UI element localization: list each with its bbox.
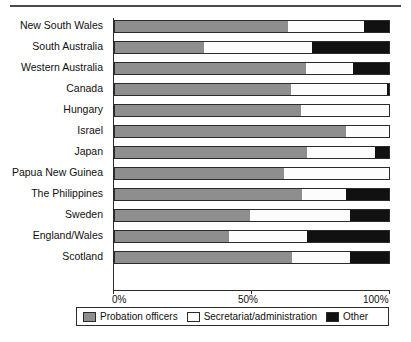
- bar-segment-probation-officers: [114, 20, 288, 33]
- x-axis-tick-label: 100%: [363, 294, 389, 305]
- bar-segment-secretariat-administration: [229, 230, 308, 243]
- bar-row: [114, 125, 390, 138]
- bar-segment-other: [350, 251, 390, 264]
- bar-segment-probation-officers: [114, 188, 302, 201]
- bar-row: [114, 167, 390, 180]
- legend-label: Secretariat/administration: [204, 311, 317, 322]
- bar-row: [114, 104, 390, 117]
- legend-swatch-icon: [187, 312, 200, 322]
- bar-segment-other: [375, 146, 390, 159]
- bar-row: [114, 20, 390, 33]
- category-label: England/Wales: [0, 228, 108, 249]
- bar-segment-other: [350, 209, 390, 222]
- bar-segment-other: [346, 188, 390, 201]
- bar-row: [114, 41, 390, 54]
- bar-segment-probation-officers: [114, 41, 204, 54]
- legend-label: Probation officers: [100, 311, 178, 322]
- category-axis-labels: New South WalesSouth AustraliaWestern Au…: [0, 18, 108, 270]
- bar-segment-other: [364, 20, 390, 33]
- bar-segment-probation-officers: [114, 146, 307, 159]
- legend-item[interactable]: Other: [326, 311, 368, 322]
- bar-segment-probation-officers: [114, 230, 229, 243]
- legend-swatch-icon: [326, 312, 339, 322]
- bar-segment-probation-officers: [114, 62, 306, 75]
- bar-segment-secretariat-administration: [291, 83, 386, 96]
- chart-legend: Probation officersSecretariat/administra…: [76, 307, 389, 326]
- category-label: Scotland: [0, 249, 108, 270]
- x-axis-tick-label: 0%: [112, 294, 126, 305]
- bar-segment-other: [307, 230, 390, 243]
- x-axis-tick: [389, 290, 390, 294]
- bar-row: [114, 251, 390, 264]
- plot-area: 0%50%100%: [113, 18, 389, 291]
- bar-segment-probation-officers: [114, 209, 250, 222]
- bar-segment-secretariat-administration: [307, 146, 376, 159]
- legend-item[interactable]: Probation officers: [83, 311, 178, 322]
- top-divider-rule: [10, 5, 401, 7]
- bar-row: [114, 188, 390, 201]
- bar-segment-probation-officers: [114, 251, 292, 264]
- legend-item[interactable]: Secretariat/administration: [187, 311, 317, 322]
- category-label: New South Wales: [0, 18, 108, 39]
- bar-segment-secretariat-administration: [292, 251, 350, 264]
- bar-row: [114, 83, 390, 96]
- bar-row: [114, 209, 390, 222]
- legend-swatch-icon: [83, 312, 96, 322]
- x-axis-tick-label: 50%: [238, 294, 258, 305]
- chart-page: New South WalesSouth AustraliaWestern Au…: [0, 0, 411, 342]
- bar-segment-probation-officers: [114, 104, 301, 117]
- bar-row: [114, 146, 390, 159]
- bar-row: [114, 62, 390, 75]
- bar-segment-probation-officers: [114, 167, 284, 180]
- category-label: Sweden: [0, 207, 108, 228]
- bar-segment-secretariat-administration: [346, 125, 390, 138]
- bar-segment-secretariat-administration: [204, 41, 312, 54]
- bar-segment-secretariat-administration: [288, 20, 364, 33]
- legend-label: Other: [343, 311, 368, 322]
- category-label: Israel: [0, 123, 108, 144]
- bar-segment-probation-officers: [114, 83, 291, 96]
- bar-segment-other: [387, 83, 390, 96]
- bar-segment-secretariat-administration: [301, 104, 390, 117]
- category-label: South Australia: [0, 39, 108, 60]
- category-label: Canada: [0, 81, 108, 102]
- bar-segment-secretariat-administration: [302, 188, 346, 201]
- category-label: Papua New Guinea: [0, 165, 108, 186]
- category-label: Japan: [0, 144, 108, 165]
- bar-segment-secretariat-administration: [284, 167, 390, 180]
- category-label: Western Australia: [0, 60, 108, 81]
- category-label: Hungary: [0, 102, 108, 123]
- bar-segment-other: [312, 41, 390, 54]
- bar-row: [114, 230, 390, 243]
- bar-segment-secretariat-administration: [250, 209, 350, 222]
- bar-segment-secretariat-administration: [306, 62, 353, 75]
- bar-segment-other: [353, 62, 390, 75]
- bar-segment-probation-officers: [114, 125, 346, 138]
- category-label: The Philippines: [0, 186, 108, 207]
